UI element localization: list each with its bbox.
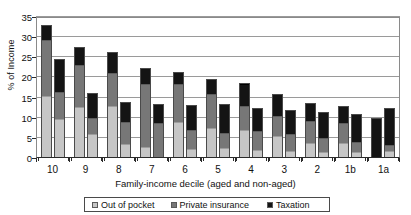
bar-segment-oop bbox=[239, 130, 250, 158]
bar-segment-pi bbox=[173, 84, 184, 121]
bar-segment-oop bbox=[305, 143, 316, 158]
x-tick-label-1b: 1b bbox=[345, 164, 356, 175]
y-tick-label-35: 35 bbox=[10, 12, 32, 23]
bar-segment-pi bbox=[318, 138, 329, 151]
bar-decile-7-aged bbox=[140, 68, 151, 158]
bar-segment-oop bbox=[338, 143, 349, 158]
bar-decile-4-nonaged bbox=[252, 108, 263, 158]
x-tick-minor bbox=[266, 158, 267, 161]
bar-segment-pi bbox=[219, 133, 230, 148]
bar-segment-oop bbox=[384, 151, 395, 158]
bar-segment-pi bbox=[305, 121, 316, 143]
bar-segment-pi bbox=[74, 65, 85, 106]
bar-decile-8-aged bbox=[107, 52, 118, 158]
chart-container: % of Income 05101520253035 10987654321b1… bbox=[0, 0, 411, 215]
bars-layer bbox=[36, 17, 400, 158]
bar-segment-oop bbox=[252, 150, 263, 158]
x-tick-boundary bbox=[102, 158, 103, 162]
bar-segment-oop bbox=[186, 149, 197, 158]
x-tick-minor bbox=[104, 158, 105, 161]
bar-decile-9-aged bbox=[74, 47, 85, 158]
bar-segment-tax bbox=[252, 108, 263, 131]
x-tick-minor bbox=[332, 158, 333, 161]
bar-segment-pi bbox=[87, 118, 98, 135]
x-tick-boundary bbox=[36, 158, 37, 162]
x-tick-minor bbox=[137, 158, 138, 161]
bar-segment-oop bbox=[74, 107, 85, 158]
x-axis-ticks bbox=[36, 158, 400, 163]
x-axis-labels: 10987654321b1a bbox=[36, 164, 400, 178]
x-tick-label-9: 9 bbox=[83, 164, 89, 175]
x-tick-minor bbox=[236, 158, 237, 161]
private-insurance-swatch bbox=[171, 202, 177, 208]
x-axis-title: Family-income decile (aged and non-aged) bbox=[0, 178, 411, 189]
bar-segment-tax bbox=[186, 105, 197, 130]
bar-decile-6-aged bbox=[173, 72, 184, 158]
bar-segment-oop bbox=[41, 96, 52, 158]
x-tick-label-2: 2 bbox=[314, 164, 320, 175]
x-tick-minor bbox=[302, 158, 303, 161]
bar-decile-10-aged bbox=[41, 25, 52, 158]
x-tick-label-8: 8 bbox=[116, 164, 122, 175]
x-tick-label-6: 6 bbox=[182, 164, 188, 175]
bar-segment-tax bbox=[318, 112, 329, 139]
bar-decile-1b-nonaged bbox=[351, 114, 362, 158]
bar-decile-5-nonaged bbox=[219, 104, 230, 158]
bar-segment-pi bbox=[41, 40, 52, 96]
bar-segment-pi bbox=[252, 131, 263, 150]
bar-segment-tax bbox=[140, 68, 151, 85]
bar-segment-tax bbox=[338, 106, 349, 123]
bar-segment-pi bbox=[120, 122, 131, 144]
bar-segment-tax bbox=[285, 110, 296, 134]
bar-segment-tax bbox=[219, 104, 230, 132]
bar-decile-1b-aged bbox=[338, 106, 349, 158]
legend-label: Out of pocket bbox=[101, 200, 155, 210]
bar-segment-pi bbox=[153, 123, 164, 158]
x-tick-boundary bbox=[201, 158, 202, 162]
out-of-pocket-swatch bbox=[92, 202, 98, 208]
x-tick-label-4: 4 bbox=[248, 164, 254, 175]
bar-segment-tax bbox=[120, 102, 131, 122]
bar-segment-tax bbox=[272, 94, 283, 115]
bar-decile-1a-nonaged bbox=[384, 108, 395, 158]
bar-segment-oop bbox=[173, 122, 184, 158]
y-tick-label-10: 10 bbox=[10, 112, 32, 123]
bar-segment-pi bbox=[140, 84, 151, 147]
y-tick-label-15: 15 bbox=[10, 92, 32, 103]
bar-segment-tax bbox=[74, 47, 85, 66]
x-tick-minor bbox=[299, 158, 300, 161]
x-tick-minor bbox=[365, 158, 366, 161]
legend-item-out-of-pocket: Out of pocket bbox=[92, 200, 155, 210]
bar-segment-tax bbox=[41, 25, 52, 40]
x-tick-minor bbox=[368, 158, 369, 161]
bar-decile-2-aged bbox=[305, 103, 316, 158]
bar-segment-oop bbox=[87, 134, 98, 158]
bar-segment-pi bbox=[186, 130, 197, 149]
bar-segment-pi bbox=[272, 116, 283, 137]
bar-segment-tax bbox=[351, 114, 362, 142]
bar-segment-oop bbox=[107, 106, 118, 158]
bar-decile-3-aged bbox=[272, 94, 283, 158]
x-tick-label-10: 10 bbox=[47, 164, 58, 175]
bar-decile-6-nonaged bbox=[186, 105, 197, 158]
plot-area bbox=[36, 17, 400, 158]
bar-segment-pi bbox=[206, 94, 217, 128]
bar-decile-9-nonaged bbox=[87, 93, 98, 158]
x-tick-minor bbox=[233, 158, 234, 161]
y-tick-label-30: 30 bbox=[10, 32, 32, 43]
bar-segment-tax bbox=[173, 72, 184, 84]
bar-segment-tax bbox=[371, 118, 382, 158]
bar-decile-4-aged bbox=[239, 83, 250, 158]
bar-decile-5-aged bbox=[206, 79, 217, 158]
bar-segment-tax bbox=[54, 59, 65, 92]
x-tick-boundary bbox=[135, 158, 136, 162]
x-tick-minor bbox=[203, 158, 204, 161]
bar-segment-pi bbox=[54, 92, 65, 119]
bar-decile-1a-aged bbox=[371, 118, 382, 158]
bar-segment-tax bbox=[107, 52, 118, 74]
bar-segment-oop bbox=[140, 147, 151, 158]
bar-segment-pi bbox=[285, 134, 296, 151]
bar-segment-tax bbox=[384, 108, 395, 144]
bar-segment-oop bbox=[285, 151, 296, 158]
bar-segment-pi bbox=[107, 73, 118, 106]
